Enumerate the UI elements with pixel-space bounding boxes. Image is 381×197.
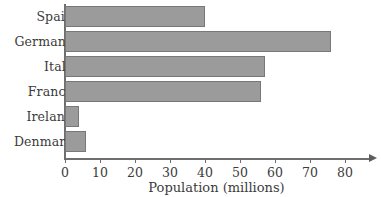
x-tick-4 [205, 158, 206, 163]
x-tick-label-1: 10 [92, 165, 108, 180]
bar-italy [65, 56, 265, 77]
bar-ireland [65, 106, 79, 127]
x-tick-label-2: 20 [127, 165, 143, 180]
bar-chart: Spain Germany Italy France Ireland Denma… [0, 0, 381, 197]
x-axis-title: Population (millions) [0, 180, 381, 195]
x-tick-5 [240, 158, 241, 163]
x-tick-6 [275, 158, 276, 163]
x-axis-arrow-icon [369, 154, 377, 162]
x-tick-2 [135, 158, 136, 163]
x-tick-label-4: 40 [197, 165, 213, 180]
x-tick-label-5: 50 [232, 165, 248, 180]
x-tick-8 [345, 158, 346, 163]
x-tick-label-6: 60 [267, 165, 283, 180]
x-axis-title-text: Population (millions) [148, 180, 284, 195]
bar-denmark [65, 131, 86, 152]
x-tick-label-7: 70 [302, 165, 318, 180]
x-tick-label-0: 0 [61, 165, 69, 180]
x-axis-line [64, 158, 372, 160]
x-tick-0 [65, 158, 66, 163]
bar-spain [65, 6, 205, 27]
x-tick-3 [170, 158, 171, 163]
bar-france [65, 81, 261, 102]
bar-germany [65, 31, 331, 52]
x-tick-1 [100, 158, 101, 163]
x-tick-label-3: 30 [162, 165, 178, 180]
x-tick-7 [310, 158, 311, 163]
x-tick-label-8: 80 [337, 165, 353, 180]
plot-area: Spain Germany Italy France Ireland Denma… [0, 0, 381, 197]
